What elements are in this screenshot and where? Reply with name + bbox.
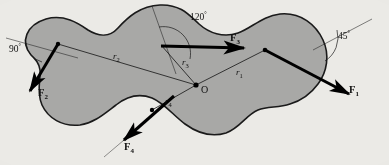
- force-label-f2: F2: [38, 88, 48, 101]
- force-label-f3: F3: [230, 33, 240, 46]
- application-point-f1: [263, 48, 268, 53]
- application-point-f4: [150, 108, 154, 112]
- position-vector-label-r1: r1: [236, 68, 243, 79]
- rigid-body-shape: [26, 5, 327, 135]
- force-label-f4: F4: [124, 142, 134, 155]
- position-vector-label-r3: r3: [182, 58, 189, 69]
- force-line-of-action-f4: [104, 140, 124, 157]
- position-vector-label-r2: r2: [113, 52, 120, 63]
- force-vector-f3: [161, 46, 244, 48]
- application-point-f2: [56, 42, 60, 46]
- figure-canvas: F2 F1 F3 F4 r2 r1 r3 r4 O 90° 120° 45°: [0, 0, 389, 165]
- origin-point-o: [193, 82, 198, 87]
- angle-label-90: 90°: [9, 43, 21, 55]
- position-vector-label-r4: r4: [165, 97, 172, 108]
- origin-label: O: [201, 85, 208, 95]
- force-label-f1: F1: [349, 85, 359, 98]
- angle-label-45: 45°: [338, 30, 350, 42]
- force-diagram-svg: [0, 0, 389, 165]
- angle-label-120: 120°: [190, 11, 207, 23]
